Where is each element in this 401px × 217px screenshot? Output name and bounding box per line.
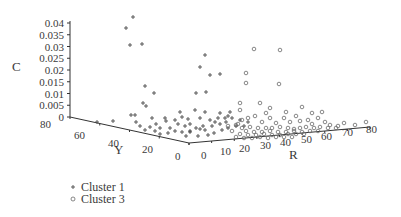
circle-point xyxy=(277,82,281,86)
scatter-3d-chart: 0.040.0350.030.0250.020.0150.010.0050 C … xyxy=(0,0,401,217)
plus-point xyxy=(186,117,190,121)
circle-point xyxy=(286,126,290,130)
c-tick-label: 0.02 xyxy=(45,64,64,76)
plus-point xyxy=(140,42,144,46)
circle-point xyxy=(298,119,302,123)
plus-point xyxy=(128,43,132,47)
plus-point xyxy=(180,130,184,134)
plus-point xyxy=(201,124,205,128)
y-tick-label: 60 xyxy=(74,129,86,141)
c-tick-label: 0.01 xyxy=(45,88,64,100)
c-axis-ticks: 0.040.0350.030.0250.020.0150.010.0050 xyxy=(39,17,70,123)
plus-point xyxy=(153,129,157,133)
r-tick-label: 10 xyxy=(220,145,232,157)
plus-point xyxy=(173,129,177,133)
circle-point xyxy=(254,133,258,137)
r-axis: 01020304050607080 R xyxy=(189,123,378,162)
c-tick-label: 0.03 xyxy=(45,41,65,53)
circle-point xyxy=(246,116,250,120)
plus-point xyxy=(141,101,145,105)
plus-point xyxy=(133,113,137,117)
plus-point xyxy=(111,119,115,123)
plus-point xyxy=(134,120,138,124)
plus-point xyxy=(218,122,222,126)
plus-point xyxy=(230,116,234,120)
plus-point xyxy=(203,110,207,114)
circle-point xyxy=(318,125,322,129)
plus-point xyxy=(166,131,170,135)
plus-point xyxy=(148,125,152,129)
plus-point xyxy=(144,104,148,108)
plus-point xyxy=(204,90,208,94)
c-tick-label: 0 xyxy=(59,111,65,123)
plus-point xyxy=(194,126,198,130)
plus-point xyxy=(129,113,133,117)
plus-point xyxy=(212,131,216,135)
plus-point xyxy=(178,110,182,114)
circle-point xyxy=(240,126,244,130)
plus-point xyxy=(196,134,200,138)
y-tick-label: 20 xyxy=(142,143,154,155)
plus-point xyxy=(218,72,222,76)
plus-point xyxy=(220,128,224,132)
r-tick-label: 60 xyxy=(321,130,333,142)
circle-point xyxy=(238,108,242,112)
legend-label: Cluster 3 xyxy=(81,193,125,205)
plus-point xyxy=(228,110,232,114)
r-tick-label: 80 xyxy=(366,123,378,135)
circle-point xyxy=(234,135,238,139)
circle-point xyxy=(248,125,252,129)
c-tick-label: 0.015 xyxy=(39,76,64,88)
circle-point xyxy=(294,114,298,118)
r-axis-title: R xyxy=(289,147,298,162)
plus-point xyxy=(206,133,210,137)
c-axis: 0.040.0350.030.0250.020.0150.010.0050 C xyxy=(12,17,70,123)
plus-point xyxy=(143,128,147,132)
circle-point xyxy=(246,133,250,137)
circle-point xyxy=(274,121,278,125)
c-axis-title: C xyxy=(12,59,21,74)
y-axis-title: Y xyxy=(114,142,124,157)
c-tick-label: 0.04 xyxy=(45,17,65,29)
plus-point xyxy=(180,115,184,119)
circle-point xyxy=(264,126,268,130)
plus-marker-icon xyxy=(68,181,78,193)
circle-point xyxy=(310,111,314,115)
plus-point xyxy=(198,65,202,69)
c-tick-label: 0.025 xyxy=(39,52,64,64)
circle-point xyxy=(270,133,274,137)
plus-point xyxy=(210,124,214,128)
plus-point xyxy=(158,132,162,136)
circle-point xyxy=(312,126,316,130)
plus-point xyxy=(188,122,192,126)
plus-point xyxy=(143,84,147,88)
plus-point xyxy=(131,15,135,19)
y-tick-label: 80 xyxy=(40,118,52,130)
plus-point xyxy=(216,116,220,120)
circle-point xyxy=(278,125,282,129)
circle-point xyxy=(244,81,248,85)
plus-point xyxy=(168,126,172,130)
circle-marker-icon xyxy=(68,193,78,205)
plus-point xyxy=(218,111,222,115)
plus-point xyxy=(223,116,227,120)
y-axis: 806040200 Y xyxy=(40,117,189,162)
circle-point xyxy=(323,120,327,124)
circle-point xyxy=(300,105,304,109)
circle-point xyxy=(260,120,264,124)
circle-point xyxy=(310,122,314,126)
plus-point xyxy=(154,122,158,126)
r-tick-label: 30 xyxy=(260,139,272,151)
plus-point xyxy=(150,116,154,120)
plus-point xyxy=(208,118,212,122)
r-tick-label: 70 xyxy=(342,126,354,138)
circle-point xyxy=(253,114,257,118)
c-tick-label: 0.035 xyxy=(39,29,64,41)
plus-point xyxy=(176,122,180,126)
plus-point xyxy=(158,126,162,130)
circle-point xyxy=(278,48,282,52)
y-tick-label: 0 xyxy=(175,150,181,162)
circle-point xyxy=(282,116,286,120)
circle-point xyxy=(264,111,268,115)
circle-point xyxy=(268,106,272,110)
